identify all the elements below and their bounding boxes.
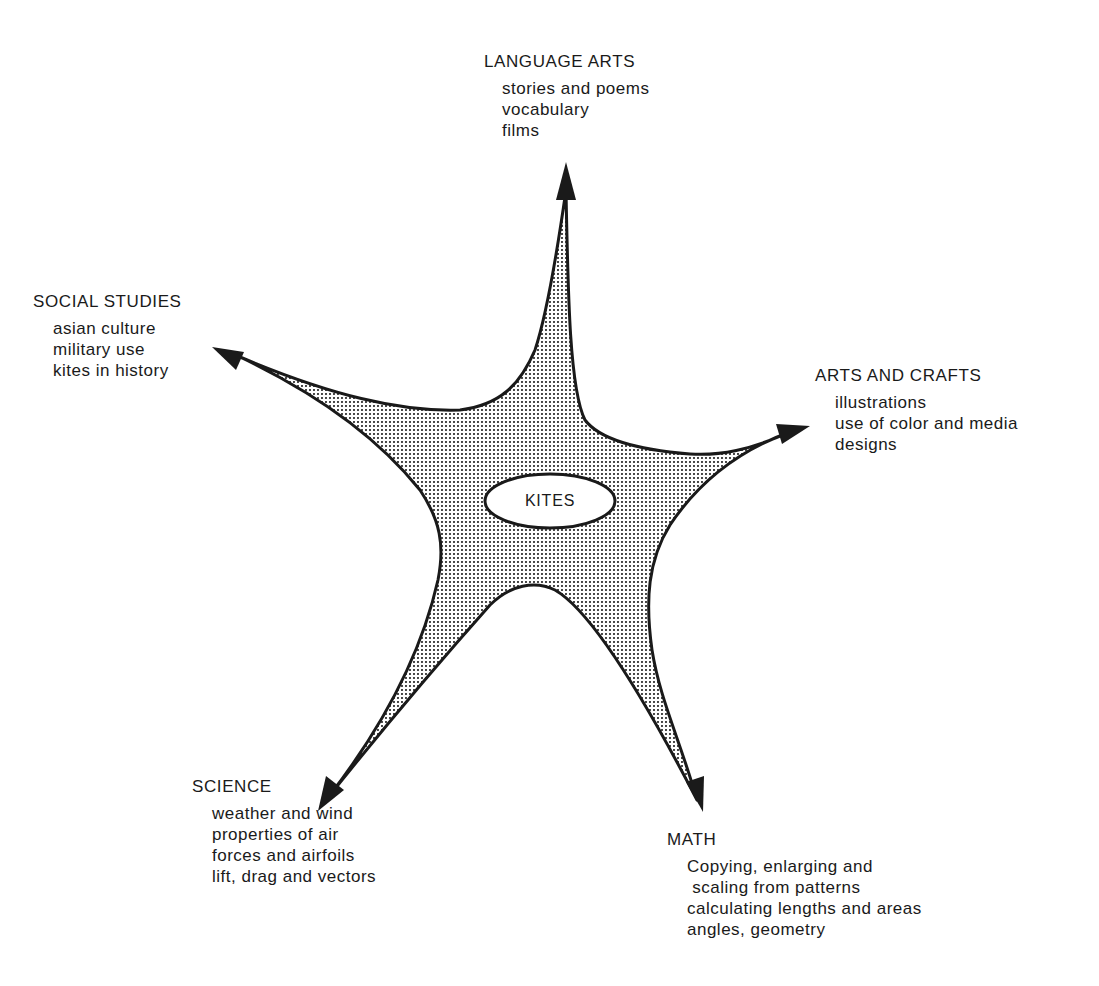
branch-item: lift, drag and vectors — [212, 866, 376, 887]
branch-item: illustrations — [835, 392, 1018, 413]
branch-item: kites in history — [53, 360, 182, 381]
branch-item: asian culture — [53, 318, 182, 339]
branch-math: MATH Copying, enlarging and scaling from… — [667, 830, 922, 940]
branch-item: stories and poems — [502, 78, 649, 99]
branch-item: vocabulary — [502, 99, 649, 120]
branch-item: angles, geometry — [687, 919, 922, 940]
branch-item: military use — [53, 339, 182, 360]
branch-social-studies: SOCIAL STUDIES asian culture military us… — [33, 292, 182, 381]
branch-item: weather and wind — [212, 803, 376, 824]
branch-title: LANGUAGE ARTS — [484, 52, 649, 72]
center-topic-label: KITES — [486, 477, 614, 525]
branch-arts-and-crafts: ARTS AND CRAFTS illustrations use of col… — [815, 366, 1018, 455]
arrow-up-icon — [556, 162, 576, 200]
arrow-lower-right-icon — [686, 776, 704, 812]
branch-item: calculating lengths and areas — [687, 898, 922, 919]
branch-item: designs — [835, 434, 1018, 455]
arrow-upper-right-icon — [776, 424, 810, 444]
branch-science: SCIENCE weather and wind properties of a… — [192, 777, 376, 887]
branch-item: Copying, enlarging and — [687, 856, 922, 877]
branch-title: SOCIAL STUDIES — [33, 292, 182, 312]
branch-language-arts: LANGUAGE ARTS stories and poems vocabula… — [484, 52, 649, 141]
branch-title: MATH — [667, 830, 922, 850]
branch-item: films — [502, 120, 649, 141]
arrow-upper-left-icon — [212, 347, 244, 370]
branch-title: SCIENCE — [192, 777, 376, 797]
branch-item: use of color and media — [835, 413, 1018, 434]
branch-item: properties of air — [212, 824, 376, 845]
branch-item: scaling from patterns — [687, 877, 922, 898]
branch-title: ARTS AND CRAFTS — [815, 366, 1018, 386]
branch-item: forces and airfoils — [212, 845, 376, 866]
